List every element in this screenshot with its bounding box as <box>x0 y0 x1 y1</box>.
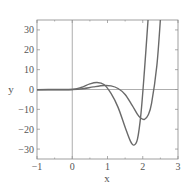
data-series <box>37 20 160 145</box>
y-tick-label: 0 <box>29 84 34 95</box>
y-tick-label: 10 <box>24 64 34 75</box>
x-tick-label: 0 <box>70 161 75 172</box>
y-tick-label: −10 <box>18 104 34 115</box>
line-chart: −10123−30−20−100102030 x y <box>0 0 192 186</box>
y-tick-label: 20 <box>24 44 34 55</box>
series-line-curve-1 <box>37 20 148 145</box>
y-tick-label: −30 <box>18 144 34 155</box>
x-tick-label: −1 <box>32 161 43 172</box>
tick-labels: −10123−30−20−100102030 <box>18 24 180 172</box>
x-tick-label: 1 <box>105 161 110 172</box>
y-axis-label: y <box>8 83 14 95</box>
y-tick-label: −20 <box>18 124 34 135</box>
y-tick-label: 30 <box>24 24 34 35</box>
x-tick-label: 3 <box>176 161 181 172</box>
x-axis-label: x <box>104 172 110 184</box>
x-tick-label: 2 <box>140 161 145 172</box>
